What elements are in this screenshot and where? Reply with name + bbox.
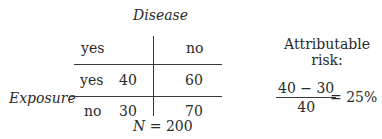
total-symbol: N	[133, 118, 145, 134]
fraction-denominator: 40	[295, 99, 317, 115]
cell-exposed-not-diseased: 60	[185, 72, 203, 88]
cell-unexposed-diseased: 30	[119, 103, 137, 119]
fraction-bar	[276, 97, 336, 98]
row-divider	[70, 96, 222, 97]
row-label-no: no	[84, 103, 101, 119]
disease-heading: Disease	[133, 7, 188, 23]
column-label-yes: yes	[81, 40, 104, 56]
attributable-risk-title-line1: Attributable	[272, 36, 382, 52]
header-divider	[74, 64, 222, 65]
exposure-heading: Exposure	[9, 90, 76, 106]
column-divider	[153, 36, 154, 116]
cell-unexposed-not-diseased: 70	[185, 103, 203, 119]
column-label-no: no	[186, 40, 203, 56]
total-count: N = 200	[133, 118, 193, 134]
attributable-risk-result: = 25%	[330, 89, 377, 105]
total-label: N = 200	[133, 118, 193, 134]
row-label-yes: yes	[80, 72, 103, 88]
cell-exposed-diseased: 40	[119, 72, 137, 88]
attributable-risk-title: Attributable risk:	[272, 36, 382, 68]
fraction-numerator: 40 − 30	[276, 80, 336, 96]
attributable-risk-title-line2: risk:	[272, 52, 382, 68]
attributable-risk-fraction: 40 − 30 40	[276, 80, 336, 115]
